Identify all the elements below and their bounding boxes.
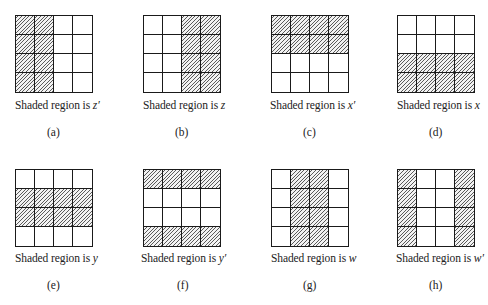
panel-caption: Shaded region is z: [143, 99, 225, 111]
caption-variable: x′: [348, 99, 355, 111]
shaded-cell: [310, 16, 329, 35]
empty-cell: [73, 170, 92, 189]
empty-cell: [163, 208, 182, 227]
shaded-cell: [201, 35, 220, 54]
caption-prefix: Shaded region is: [397, 99, 475, 111]
empty-cell: [73, 227, 92, 246]
shaded-cell: [398, 170, 417, 189]
shaded-cell: [35, 189, 54, 208]
empty-cell: [329, 227, 348, 246]
panel-caption: Shaded region is w′: [396, 252, 484, 264]
shaded-cell: [201, 54, 220, 73]
shaded-cell: [455, 54, 474, 73]
shaded-cell: [16, 73, 35, 92]
shaded-cell: [182, 16, 201, 35]
shaded-cell: [35, 16, 54, 35]
shaded-cell: [455, 227, 474, 246]
empty-cell: [35, 170, 54, 189]
shaded-grid-d: [397, 15, 475, 93]
empty-cell: [329, 189, 348, 208]
shaded-cell: [417, 54, 436, 73]
shaded-cell: [16, 208, 35, 227]
shaded-cell: [182, 54, 201, 73]
shaded-grid-h: [397, 169, 475, 247]
empty-cell: [329, 170, 348, 189]
empty-cell: [398, 35, 417, 54]
shaded-cell: [272, 35, 291, 54]
empty-cell: [163, 35, 182, 54]
caption-prefix: Shaded region is: [271, 252, 349, 264]
shaded-cell: [144, 227, 163, 246]
empty-cell: [201, 189, 220, 208]
panel-caption: Shaded region is y: [15, 252, 98, 264]
shaded-cell: [73, 189, 92, 208]
empty-cell: [272, 54, 291, 73]
empty-cell: [291, 54, 310, 73]
empty-cell: [417, 16, 436, 35]
panel-label: (g): [303, 279, 316, 291]
caption-variable: z: [221, 99, 225, 111]
empty-cell: [54, 170, 73, 189]
empty-cell: [436, 227, 455, 246]
empty-cell: [144, 73, 163, 92]
empty-cell: [291, 73, 310, 92]
panel-caption: Shaded region is y′: [141, 252, 226, 264]
empty-cell: [54, 16, 73, 35]
empty-cell: [310, 73, 329, 92]
shaded-cell: [291, 35, 310, 54]
empty-cell: [455, 35, 474, 54]
caption-prefix: Shaded region is: [270, 99, 348, 111]
empty-cell: [35, 227, 54, 246]
empty-cell: [54, 73, 73, 92]
caption-prefix: Shaded region is: [15, 252, 93, 264]
shaded-cell: [455, 170, 474, 189]
empty-cell: [201, 208, 220, 227]
shaded-cell: [310, 189, 329, 208]
empty-cell: [417, 208, 436, 227]
empty-cell: [182, 189, 201, 208]
empty-cell: [417, 35, 436, 54]
empty-cell: [436, 208, 455, 227]
panel-label: (h): [429, 279, 442, 291]
shaded-cell: [455, 189, 474, 208]
panel-label: (e): [47, 279, 60, 291]
shaded-cell: [310, 35, 329, 54]
empty-cell: [163, 73, 182, 92]
shaded-cell: [163, 227, 182, 246]
shaded-grid-g: [271, 169, 349, 247]
shaded-cell: [35, 208, 54, 227]
empty-cell: [73, 16, 92, 35]
shaded-cell: [201, 73, 220, 92]
shaded-cell: [436, 73, 455, 92]
empty-cell: [16, 170, 35, 189]
shaded-cell: [35, 35, 54, 54]
shaded-cell: [16, 189, 35, 208]
shaded-cell: [54, 208, 73, 227]
empty-cell: [417, 170, 436, 189]
caption-prefix: Shaded region is: [15, 99, 93, 111]
shaded-cell: [329, 35, 348, 54]
panel-caption: Shaded region is x: [397, 99, 480, 111]
panel-label: (d): [429, 126, 442, 138]
empty-cell: [417, 227, 436, 246]
shaded-cell: [398, 227, 417, 246]
caption-variable: w: [349, 252, 357, 264]
empty-cell: [329, 73, 348, 92]
shaded-cell: [201, 170, 220, 189]
empty-cell: [144, 54, 163, 73]
empty-cell: [329, 54, 348, 73]
empty-cell: [272, 170, 291, 189]
empty-cell: [163, 16, 182, 35]
empty-cell: [182, 208, 201, 227]
caption-prefix: Shaded region is: [396, 252, 474, 264]
empty-cell: [417, 189, 436, 208]
shaded-cell: [35, 54, 54, 73]
shaded-cell: [398, 208, 417, 227]
empty-cell: [272, 73, 291, 92]
caption-variable: y′: [219, 252, 226, 264]
shaded-cell: [436, 54, 455, 73]
empty-cell: [144, 35, 163, 54]
empty-cell: [73, 54, 92, 73]
empty-cell: [398, 16, 417, 35]
caption-variable: z′: [93, 99, 100, 111]
